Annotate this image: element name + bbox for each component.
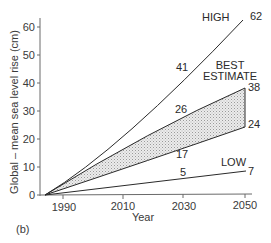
- label-best-26: 26: [175, 103, 187, 115]
- label-high-62: 62: [250, 10, 262, 22]
- sea-level-chart: 0 10 20 30 40 50 60 Global – mean sea le…: [0, 0, 271, 243]
- annotations: HIGH 62 41 BEST ESTIMATE 38 26 24 17 LOW…: [175, 10, 262, 178]
- y-axis-title: Global – mean sea level rise (cm): [8, 30, 20, 194]
- y-tick-30: 30: [23, 105, 35, 117]
- label-high: HIGH: [202, 11, 230, 23]
- y-tick-40: 40: [23, 77, 35, 89]
- y-tick-0: 0: [29, 189, 35, 201]
- label-low-5: 5: [180, 166, 186, 178]
- y-tick-20: 20: [23, 133, 35, 145]
- y-axis: 0 10 20 30 40 50 60 Global – mean sea le…: [8, 18, 40, 201]
- label-best-24: 24: [248, 118, 260, 130]
- y-tick-60: 60: [23, 21, 35, 33]
- best-estimate-band: [45, 88, 245, 195]
- x-axis: 1990 2010 2030 2050 Year: [40, 194, 257, 223]
- label-low: LOW: [221, 156, 247, 168]
- label-best-17: 17: [176, 148, 188, 160]
- x-tick-1990: 1990: [52, 201, 76, 213]
- y-tick-50: 50: [23, 49, 35, 61]
- panel-label: (b): [16, 223, 29, 235]
- label-best-38: 38: [248, 81, 260, 93]
- label-low-7: 7: [248, 165, 254, 177]
- y-tick-10: 10: [23, 161, 35, 173]
- x-axis-title: Year: [132, 211, 155, 223]
- label-high-41: 41: [176, 61, 188, 73]
- x-tick-2050: 2050: [233, 199, 257, 211]
- x-tick-2030: 2030: [172, 200, 196, 212]
